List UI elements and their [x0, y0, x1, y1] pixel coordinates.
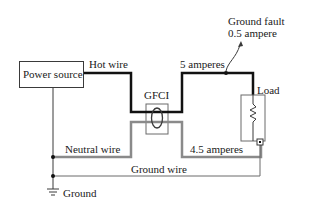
neutral-current-label: 4.5 amperes — [190, 143, 243, 155]
ground-wire-label: Ground wire — [131, 163, 187, 175]
ground-symbol-icon — [47, 189, 59, 195]
fault-point-dot — [224, 71, 228, 75]
fault-arrow — [226, 45, 240, 71]
power-source-label: Power source — [23, 68, 83, 80]
neutral-wire-label: Neutral wire — [65, 143, 120, 155]
load-label: Load — [257, 84, 280, 96]
ground-junction-dot — [51, 174, 55, 178]
arrow-head-icon — [238, 41, 243, 47]
neutral-junction-dot — [51, 155, 55, 159]
hot-wire-label: Hot wire — [89, 58, 128, 70]
fault-label-line2: 0.5 ampere — [228, 27, 277, 39]
hot-current-label: 5 amperes — [180, 58, 225, 70]
gfci-label: GFCI — [144, 89, 169, 101]
ground-label: Ground — [63, 187, 97, 199]
fault-label-line1: Ground fault — [228, 15, 285, 27]
